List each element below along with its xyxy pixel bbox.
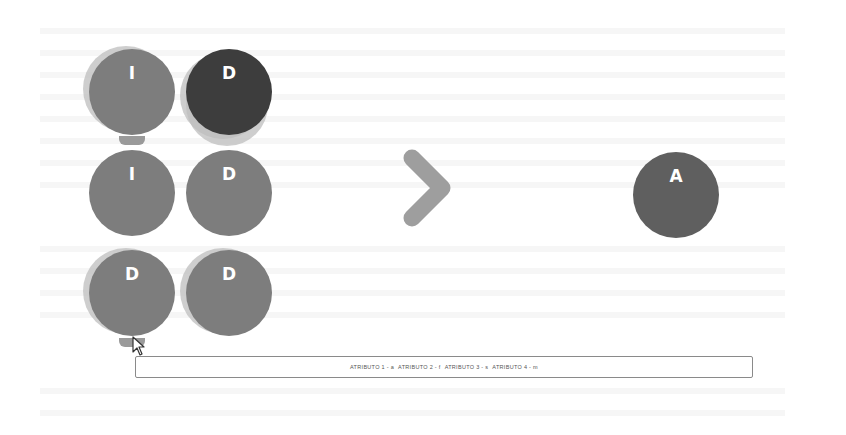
attribute-strip: ATRIBUTO 1 - a ATRIBUTO 2 - f ATRIBUTO 3… [135, 356, 753, 378]
token-i-row1[interactable]: I [89, 49, 175, 135]
token-label: D [186, 164, 272, 184]
mouse-cursor-icon [132, 336, 146, 356]
token-d-row2[interactable]: D [186, 150, 272, 236]
token-i-row2[interactable]: I [89, 150, 175, 236]
token-d-row3-left[interactable]: D [89, 250, 175, 336]
token-d-row3-right[interactable]: D [186, 250, 272, 336]
result-label: A [669, 166, 682, 186]
token-label: I [89, 164, 175, 184]
result-token-a[interactable]: A [633, 152, 719, 238]
token-label: D [186, 63, 272, 83]
puzzle-canvas: I D I D D D A ATRIBUTO 1 - a ATRIBUTO 2 … [0, 0, 846, 435]
attribute-4: ATRIBUTO 4 - m [492, 364, 538, 370]
token-label: D [186, 264, 272, 284]
token-nub [119, 136, 145, 145]
background-text-bleed [40, 378, 785, 418]
attribute-3: ATRIBUTO 3 - s [445, 364, 489, 370]
chevron-right-icon [402, 148, 452, 228]
token-label: I [89, 63, 175, 83]
token-label: D [89, 264, 175, 284]
attribute-2: ATRIBUTO 2 - f [398, 364, 441, 370]
attribute-1: ATRIBUTO 1 - a [350, 364, 394, 370]
token-d-row1-selected[interactable]: D [186, 49, 272, 135]
